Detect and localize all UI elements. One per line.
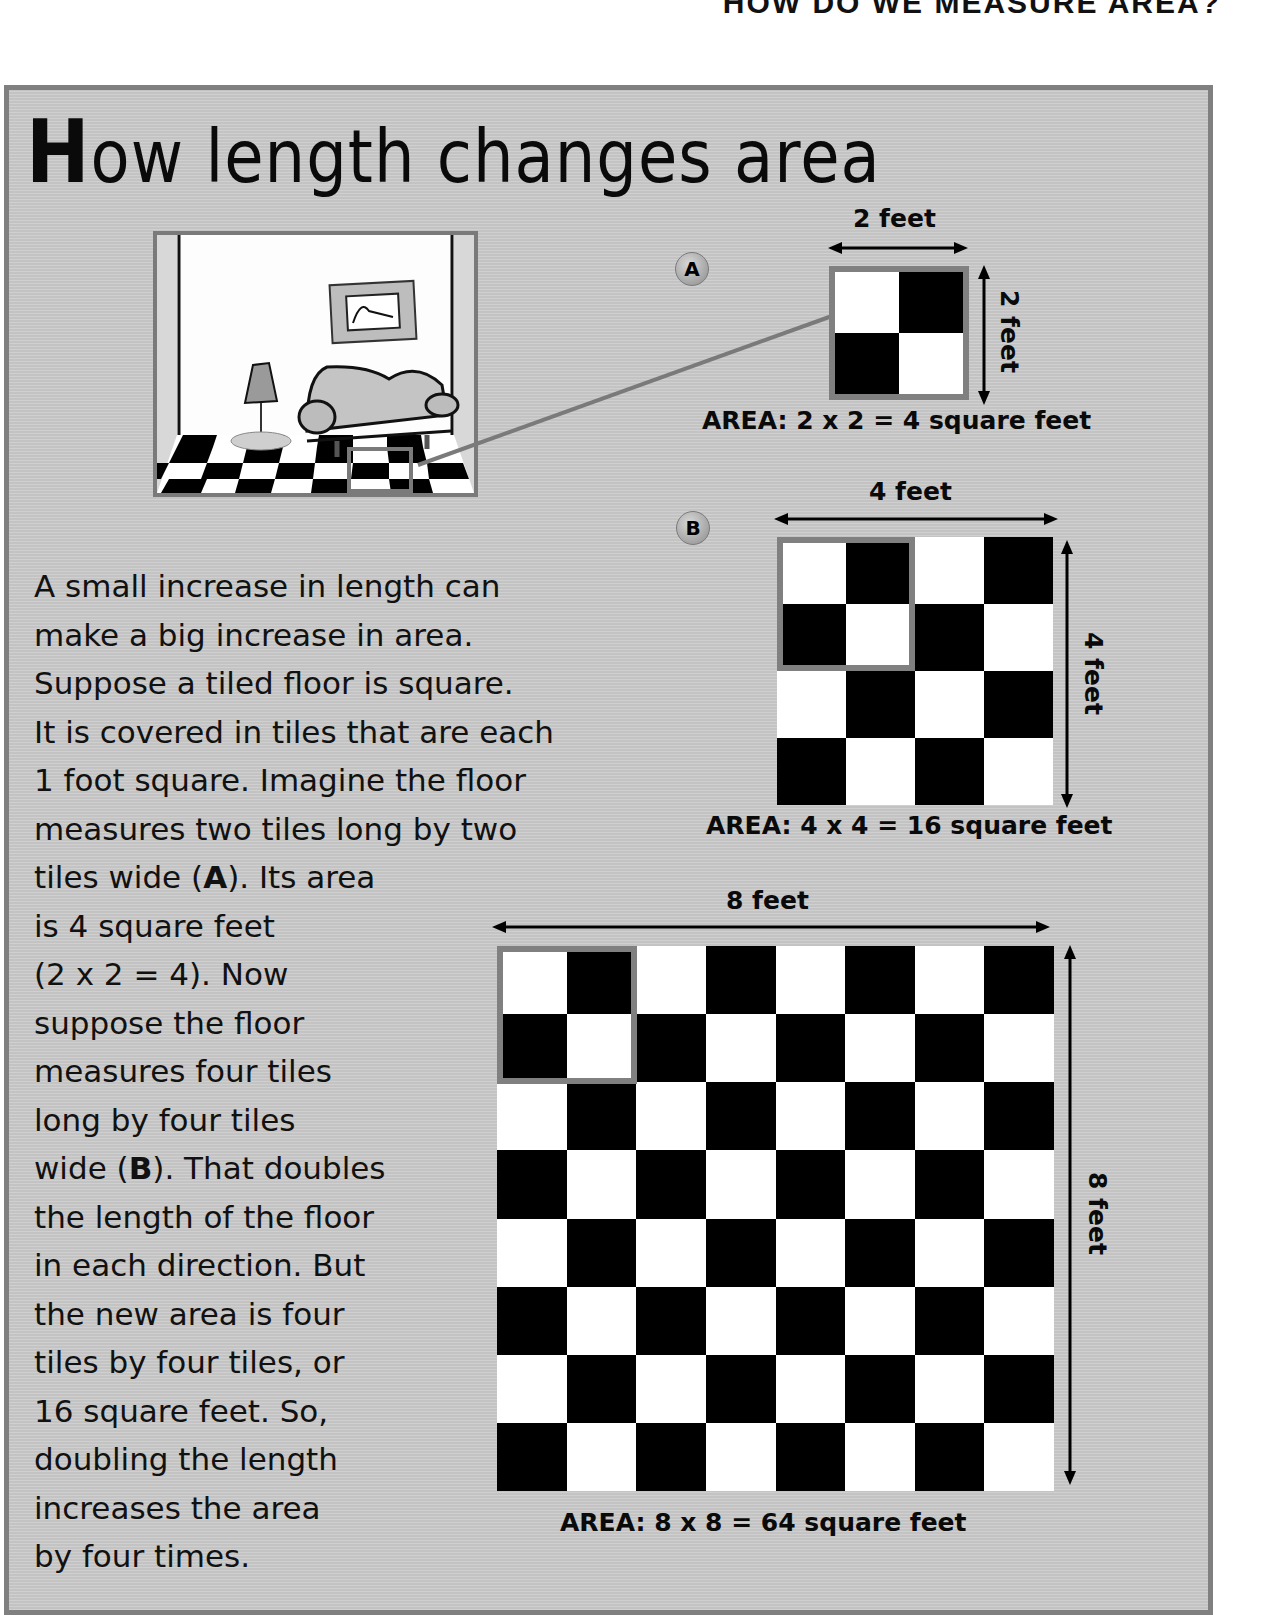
tile — [706, 1355, 776, 1423]
tile — [845, 946, 915, 1014]
tile — [636, 1423, 706, 1491]
tile — [984, 946, 1054, 1014]
vertical-arrow-icon — [977, 265, 991, 405]
horizontal-arrow-icon — [492, 920, 1050, 934]
tile — [984, 1423, 1054, 1491]
tile — [706, 1219, 776, 1287]
tile — [636, 946, 706, 1014]
room-scene-icon — [157, 235, 474, 493]
room-illustration — [153, 231, 478, 497]
tile — [984, 1287, 1054, 1355]
tile — [915, 1150, 985, 1218]
tile — [776, 1287, 846, 1355]
area-label-a: AREA: 2 x 2 = 4 square feet — [702, 406, 1091, 435]
height-label-c: 8 feet — [1083, 1172, 1112, 1255]
tile — [845, 1423, 915, 1491]
body-line: doubling the length — [34, 1435, 554, 1484]
tile — [915, 537, 984, 604]
tile — [636, 1219, 706, 1287]
body-line: the new area is four — [34, 1290, 554, 1339]
tile — [846, 537, 915, 604]
body-line: measures two tiles long by two — [34, 805, 554, 854]
tile — [706, 1014, 776, 1082]
body-line: 16 square feet. So, — [34, 1387, 554, 1436]
tile — [567, 1287, 637, 1355]
tile — [776, 1423, 846, 1491]
tile — [567, 1150, 637, 1218]
vertical-arrow-icon — [1060, 540, 1074, 808]
tile — [984, 1219, 1054, 1287]
tile — [846, 604, 915, 671]
tile — [777, 671, 846, 738]
tile — [845, 1082, 915, 1150]
body-line: 1 foot square. Imagine the floor — [34, 756, 554, 805]
body-line: tiles by four tiles, or — [34, 1338, 554, 1387]
tile — [915, 1423, 985, 1491]
page-title: How length changes area — [26, 100, 881, 202]
width-label-a: 2 feet — [853, 204, 936, 233]
tile — [845, 1014, 915, 1082]
tile-grid-a — [829, 266, 969, 400]
running-head: HOW DO WE MEASURE AREA? — [723, 0, 1221, 20]
body-line: wide (B). That doubles — [34, 1144, 554, 1193]
tile — [915, 1014, 985, 1082]
tile — [776, 946, 846, 1014]
tile — [636, 1150, 706, 1218]
tile — [984, 1082, 1054, 1150]
body-line: increases the area — [34, 1484, 554, 1533]
body-line: measures four tiles — [34, 1047, 554, 1096]
body-line: in each direction. But — [34, 1241, 554, 1290]
tile — [984, 1150, 1054, 1218]
body-line: long by four tiles — [34, 1096, 554, 1145]
tile — [984, 671, 1053, 738]
horizontal-arrow-icon — [774, 512, 1058, 526]
body-line: A small increase in length can — [34, 562, 554, 611]
body-line: tiles wide (A). Its area — [34, 853, 554, 902]
tile — [776, 1150, 846, 1218]
tile — [776, 1219, 846, 1287]
tile — [846, 738, 915, 805]
area-label-c: AREA: 8 x 8 = 64 square feet — [560, 1508, 967, 1537]
tile — [984, 1355, 1054, 1423]
title-rest: ow length changes area — [91, 114, 881, 199]
body-line: suppose the floor — [34, 999, 554, 1048]
tile — [567, 1219, 637, 1287]
body-line: the length of the floor — [34, 1193, 554, 1242]
tile — [915, 946, 985, 1014]
tile — [706, 946, 776, 1014]
tile — [567, 1423, 637, 1491]
tile — [984, 738, 1053, 805]
tile — [777, 604, 846, 671]
ref-a: A — [203, 859, 227, 895]
tile — [567, 946, 637, 1014]
tile — [915, 1355, 985, 1423]
tile — [636, 1082, 706, 1150]
tile — [915, 738, 984, 805]
body-line: (2 x 2 = 4). Now — [34, 950, 554, 999]
marker-a: A — [675, 252, 709, 286]
tile — [776, 1082, 846, 1150]
body-line: by four times. — [34, 1532, 554, 1581]
body-line: It is covered in tiles that are each — [34, 708, 554, 757]
width-label-c: 8 feet — [726, 886, 809, 915]
height-label-a: 2 feet — [995, 290, 1024, 373]
ref-b: B — [129, 1150, 153, 1186]
tile — [984, 604, 1053, 671]
height-label-b: 4 feet — [1079, 632, 1108, 715]
tile — [915, 604, 984, 671]
tile-grid-c — [497, 946, 1054, 1491]
horizontal-arrow-icon — [828, 241, 968, 255]
body-paragraph: A small increase in length can make a bi… — [34, 562, 554, 1581]
tile — [567, 1082, 637, 1150]
body-line: Suppose a tiled floor is square. — [34, 659, 554, 708]
tile — [845, 1287, 915, 1355]
tile — [846, 671, 915, 738]
tile — [915, 1219, 985, 1287]
tile — [915, 671, 984, 738]
tile — [636, 1355, 706, 1423]
tile — [636, 1014, 706, 1082]
tile — [706, 1423, 776, 1491]
title-cap: H — [26, 100, 91, 202]
vertical-arrow-icon — [1063, 945, 1077, 1485]
tile — [845, 1150, 915, 1218]
